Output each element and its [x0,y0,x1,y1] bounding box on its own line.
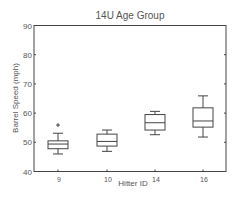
box-hitter-9 [48,123,68,154]
box-plot-chart: 14U Age Group 405060708090 9101416 Hitte… [0,0,244,198]
y-tick-label: 70 [23,80,32,89]
y-tick-label: 50 [23,138,32,147]
y-tick-label: 80 [23,51,32,60]
box-hitter-16 [193,96,213,137]
plot-frame [34,26,226,172]
x-tick-label: 10 [104,176,112,183]
x-tick-label: 14 [152,176,160,183]
chart-title: 14U Age Group [96,10,165,21]
box-hitter-10 [97,130,117,151]
boxes [48,96,213,154]
y-axis-label: Barrel Speed (mph) [11,63,20,133]
x-tick-label: 16 [200,176,208,183]
x-tick-label: 9 [57,176,61,183]
y-tick-label: 90 [23,22,32,31]
x-axis-label: Hitter ID [118,179,148,188]
y-tick-label: 60 [23,109,32,118]
y-axis: 405060708090 [23,22,226,177]
box-hitter-14 [145,111,165,134]
y-tick-label: 40 [23,168,32,177]
